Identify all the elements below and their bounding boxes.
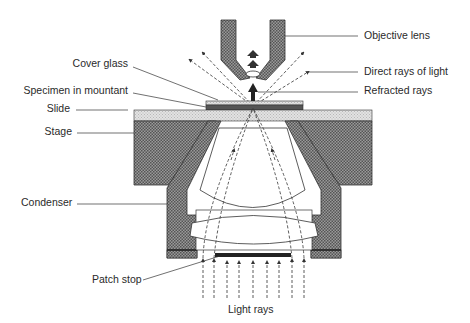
condenser-top-lens bbox=[200, 128, 305, 208]
objective-lens bbox=[221, 20, 285, 80]
label-cover-glass: Cover glass bbox=[73, 57, 128, 69]
label-stage: Stage bbox=[45, 125, 72, 137]
label-specimen: Specimen in mountant bbox=[24, 84, 128, 96]
label-light-rays: Light rays bbox=[228, 303, 274, 315]
patch-stop bbox=[215, 253, 291, 257]
label-slide: Slide bbox=[47, 102, 70, 114]
microscope-diagram bbox=[0, 0, 470, 323]
slide bbox=[134, 110, 372, 121]
label-objective-lens: Objective lens bbox=[364, 29, 430, 41]
label-refracted-rays: Refracted rays bbox=[364, 84, 432, 96]
specimen bbox=[206, 105, 303, 110]
direct-rays bbox=[190, 53, 308, 106]
refracted-ray-arrow bbox=[248, 83, 258, 103]
condenser-lower-lens bbox=[190, 216, 318, 245]
cover-glass bbox=[206, 101, 303, 105]
label-direct-rays: Direct rays of light bbox=[364, 65, 448, 77]
label-patch-stop: Patch stop bbox=[92, 273, 142, 285]
label-condenser: Condenser bbox=[21, 196, 72, 208]
